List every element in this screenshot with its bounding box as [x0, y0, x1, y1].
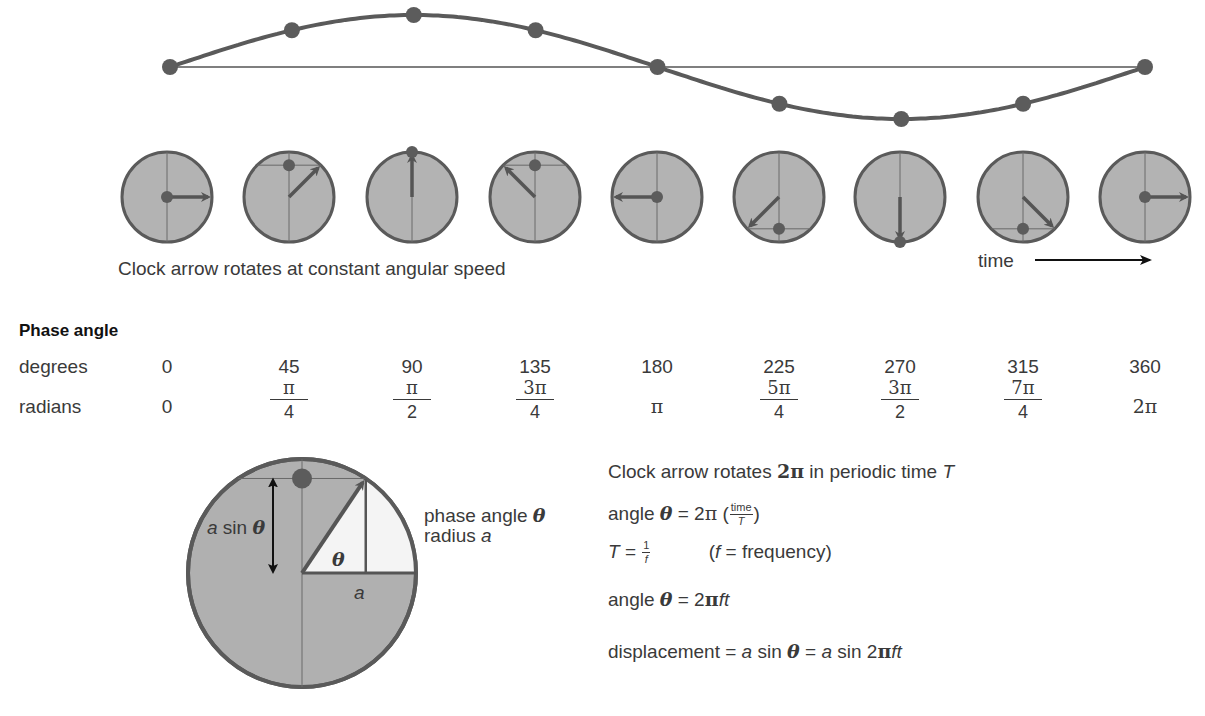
radians-value: π — [627, 397, 687, 416]
degrees-value: 270 — [860, 357, 940, 376]
degrees-value: 135 — [495, 357, 575, 376]
radians-value: 3π2 — [870, 379, 930, 421]
radians-value: 0 — [137, 397, 197, 416]
projection-dot — [406, 146, 418, 158]
clock-180 — [612, 152, 702, 242]
wave-point — [284, 22, 300, 38]
projection-dot — [529, 159, 541, 171]
wave-point — [1015, 96, 1031, 112]
projection-dot — [894, 236, 906, 248]
equation-displacement: displacement = a sin θ = a sin 2πft — [608, 642, 902, 661]
a-sin-theta-label: a sin θ — [207, 518, 265, 537]
projection-dot — [283, 159, 295, 171]
projection-dot — [292, 468, 312, 488]
projection-dot — [1017, 223, 1029, 235]
phase-angle-legend: phase angle θ — [424, 506, 546, 525]
degrees-value: 315 — [983, 357, 1063, 376]
wave-point — [406, 7, 422, 23]
projection-dot — [161, 191, 173, 203]
clock-0 — [122, 152, 212, 242]
degrees-value: 180 — [617, 357, 697, 376]
radius-legend: radius a — [424, 526, 492, 545]
degrees-row-label: degrees — [19, 357, 88, 376]
clock-90 — [367, 146, 457, 242]
clock-135 — [490, 152, 580, 242]
projection-dot — [773, 223, 785, 235]
projection-dot — [651, 191, 663, 203]
degrees-value: 45 — [249, 357, 329, 376]
theta-label: θ — [332, 550, 345, 569]
degrees-value: 90 — [372, 357, 452, 376]
radians-value: 7π4 — [993, 379, 1053, 421]
wave-point — [162, 59, 178, 75]
wave-point — [650, 59, 666, 75]
radians-value: 2π — [1115, 397, 1175, 416]
detail-circle — [188, 459, 416, 687]
time-over-T-fraction: timeT — [730, 502, 753, 527]
one-over-f-fraction: 1f — [642, 540, 650, 565]
wave-point — [528, 22, 544, 38]
radians-value: 5π4 — [749, 379, 809, 421]
wave-point — [893, 111, 909, 127]
time-label: time — [978, 251, 1014, 270]
clock-row — [122, 146, 1190, 248]
clock-225 — [734, 152, 824, 242]
clock-caption: Clock arrow rotates at constant angular … — [118, 259, 506, 278]
degrees-value: 360 — [1105, 357, 1185, 376]
sine-wave — [162, 7, 1153, 127]
radius-a-label: a — [354, 583, 365, 602]
clock-270 — [855, 152, 945, 248]
clock-315 — [978, 152, 1068, 242]
wave-point — [771, 96, 787, 112]
equation-angle-time: angle θ = 2π (timeT) — [608, 502, 760, 527]
clock-360 — [1100, 152, 1190, 242]
projection-dot — [1139, 191, 1151, 203]
equation-period-frequency: T = 1f (f = frequency) — [608, 540, 832, 565]
radians-value: π4 — [259, 379, 319, 421]
radians-value: π2 — [382, 379, 442, 421]
radians-value: 3π4 — [505, 379, 565, 421]
wave-point — [1137, 59, 1153, 75]
equation-periodic-time: Clock arrow rotates 2π in periodic time … — [608, 462, 954, 481]
equation-angle-ft: angle θ = 2πft — [608, 590, 729, 609]
radians-row-label: radians — [19, 397, 81, 416]
degrees-value: 0 — [127, 357, 207, 376]
phase-angle-heading: Phase angle — [19, 322, 118, 339]
degrees-value: 225 — [739, 357, 819, 376]
clock-45 — [244, 152, 334, 242]
